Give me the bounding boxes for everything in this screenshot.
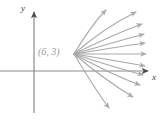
- x-axis-label: x: [152, 73, 156, 82]
- point-coordinate-label: (6, 3): [38, 47, 60, 57]
- direction-field-figure: y x (6, 3): [0, 0, 167, 126]
- plot-canvas: [0, 0, 167, 126]
- curve-family-group: [74, 10, 146, 108]
- curve-arrow-2: [74, 12, 136, 54]
- curve-arrow-11: [74, 54, 109, 108]
- curve-arrow-10: [74, 54, 133, 97]
- y-axis-label: y: [21, 4, 25, 13]
